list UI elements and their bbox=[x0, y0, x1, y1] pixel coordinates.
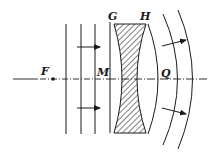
label-m: M bbox=[97, 67, 109, 78]
concave-lens bbox=[114, 24, 146, 133]
focal-point-dot bbox=[51, 77, 55, 81]
label-q: Q bbox=[161, 68, 171, 79]
diagram-canvas bbox=[0, 0, 210, 158]
label-h: H bbox=[140, 11, 150, 22]
label-g: G bbox=[108, 11, 117, 22]
label-f: F bbox=[41, 66, 49, 77]
